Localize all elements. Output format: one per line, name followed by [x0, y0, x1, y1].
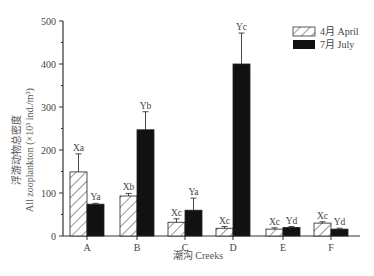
bar-labels: XaXbXcXcXcXcYaYbYaYcYdYd — [73, 22, 346, 227]
bar-april — [314, 223, 331, 236]
significance-label: Xb — [123, 182, 135, 192]
bar-april — [70, 172, 87, 236]
significance-label: Yb — [140, 101, 152, 111]
bar-july — [331, 229, 348, 236]
x-tick-label: B — [134, 242, 141, 253]
significance-label: Xc — [269, 217, 280, 227]
bar-chart: 浮游动物总密度 All zooplankton (×10³ ind./m³) 0… — [0, 0, 374, 276]
bar-july — [137, 130, 154, 236]
legend-label-april: 4月 April — [320, 26, 359, 37]
significance-label: Xc — [219, 216, 230, 226]
y-tick-label: 500 — [41, 16, 56, 27]
y-axis-title-en: All zooplankton (×10³ ind./m³) — [24, 88, 36, 212]
x-axis-title: 潮沟 Creeks — [173, 249, 223, 261]
significance-label: Yd — [286, 216, 298, 226]
legend-label-july: 7月 July — [320, 39, 354, 50]
x-tick-label: F — [328, 242, 334, 253]
significance-label: Xc — [317, 211, 328, 221]
y-tick-label: 400 — [41, 59, 56, 70]
significance-label: Xc — [171, 208, 182, 218]
significance-label: Ya — [90, 192, 101, 202]
y-tick-label: 200 — [41, 145, 56, 156]
bar-july — [233, 64, 250, 236]
legend: 4月 April 7月 July — [293, 26, 359, 50]
y-axis-title: 浮游动物总密度 All zooplankton (×10³ ind./m³) — [10, 88, 36, 212]
bar-july — [87, 204, 104, 236]
significance-label: Yd — [334, 217, 346, 227]
bar-april — [168, 222, 185, 236]
y-tick-label: 0 — [51, 231, 56, 242]
legend-swatch-july — [293, 40, 315, 49]
x-tick-label: E — [280, 242, 286, 253]
significance-label: Yc — [236, 22, 247, 32]
bar-april — [266, 229, 283, 236]
bar-april — [216, 228, 233, 236]
x-tick-label: A — [83, 242, 91, 253]
legend-swatch-april — [293, 27, 315, 36]
y-tick-label: 100 — [41, 188, 56, 199]
y-tick-label: 300 — [41, 102, 56, 113]
significance-label: Xa — [73, 143, 85, 153]
bar-july — [185, 210, 202, 236]
x-tick-label: D — [229, 242, 236, 253]
y-axis-title-cn: 浮游动物总密度 — [10, 115, 22, 185]
bars — [70, 33, 348, 236]
bar-april — [120, 196, 137, 236]
bar-july — [283, 227, 300, 236]
significance-label: Ya — [188, 187, 199, 197]
